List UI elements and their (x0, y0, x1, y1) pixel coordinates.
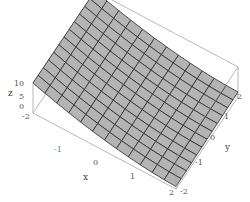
y-tick-neg1: -1 (195, 159, 203, 167)
z-tick-5: 5 (19, 93, 24, 101)
z-tick-neg2: -2 (22, 113, 30, 121)
y-axis-label: y (225, 143, 230, 151)
y-tick-1: 1 (224, 113, 229, 121)
x-tick-0: 0 (93, 159, 98, 167)
x-tick-neg1: -1 (54, 146, 62, 154)
y-tick-neg2: -2 (180, 188, 188, 196)
z-axis-label: z (8, 89, 13, 97)
z-tick-0: 0 (19, 103, 24, 111)
y-tick-0: 0 (210, 134, 215, 142)
y-tick-2: 2 (237, 93, 242, 101)
x-axis-label: x (83, 173, 88, 181)
surface-plot (0, 0, 250, 202)
surface-mesh (33, 0, 238, 187)
x-tick-1: 1 (130, 173, 135, 181)
x-tick-2: 2 (169, 189, 174, 197)
z-tick-10: 10 (14, 80, 24, 88)
